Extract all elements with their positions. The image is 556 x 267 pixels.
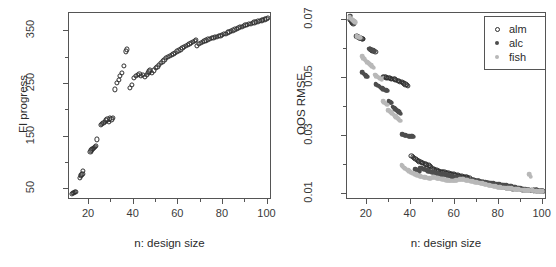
data-point-fish xyxy=(528,175,533,180)
legend-label: fish xyxy=(509,51,526,63)
x-tick-minor xyxy=(432,199,433,202)
data-point-alm xyxy=(112,87,117,92)
data-point-alm xyxy=(406,83,411,88)
y-tick xyxy=(63,30,68,31)
legend-item-alm: alm xyxy=(491,22,537,36)
y-tick-label: 350 xyxy=(24,0,36,59)
y-tick-label: 0.05 xyxy=(302,47,314,106)
legend: almalcfish xyxy=(484,16,546,70)
x-tick xyxy=(267,199,268,204)
data-point-alc xyxy=(412,134,417,139)
legend-item-fish: fish xyxy=(491,50,537,64)
y-tick-label: 0.07 xyxy=(302,0,314,48)
chart-panel-right: OOS RMSE n: design size 204060801000.010… xyxy=(278,0,556,267)
x-axis-title: n: design size xyxy=(134,237,204,249)
y-tick-label: 150 xyxy=(24,105,36,164)
data-point-fish xyxy=(379,77,384,82)
data-point-alm xyxy=(93,143,98,148)
x-tick-label: 40 xyxy=(127,207,139,219)
x-tick-minor xyxy=(520,199,521,202)
x-tick-label: 20 xyxy=(82,207,94,219)
data-point-alm xyxy=(129,83,134,88)
y-tick-label: 0.03 xyxy=(302,105,314,164)
x-tick-minor xyxy=(388,199,389,202)
x-tick-minor xyxy=(476,199,477,202)
data-point-alm xyxy=(121,64,126,69)
x-tick xyxy=(542,199,543,204)
x-tick-label: 80 xyxy=(216,207,228,219)
x-tick-label: 60 xyxy=(171,207,183,219)
y-tick-minor xyxy=(343,164,346,165)
x-tick xyxy=(410,199,411,204)
y-tick xyxy=(63,136,68,137)
y-tick-minor xyxy=(65,162,68,163)
x-tick-minor xyxy=(200,199,201,202)
x-axis-title: n: design size xyxy=(411,237,481,249)
data-point-fish xyxy=(358,35,363,40)
x-tick xyxy=(177,199,178,204)
plot-frame xyxy=(68,12,271,199)
chart-panel-left: FI progress n: design size 2040608010050… xyxy=(0,0,278,267)
y-tick xyxy=(63,188,68,189)
legend-marker-icon xyxy=(491,27,503,32)
y-tick-minor xyxy=(343,48,346,49)
x-tick xyxy=(222,199,223,204)
legend-marker-icon xyxy=(491,55,503,60)
data-point-alc xyxy=(398,111,403,116)
x-tick-minor xyxy=(155,199,156,202)
data-point-alc xyxy=(365,74,370,79)
x-tick xyxy=(454,199,455,204)
x-tick-label: 100 xyxy=(257,207,275,219)
x-tick-label: 40 xyxy=(404,207,416,219)
y-tick xyxy=(341,193,346,194)
data-point-alm xyxy=(119,70,124,75)
data-point-alc xyxy=(372,49,377,54)
x-tick xyxy=(88,199,89,204)
y-tick xyxy=(63,83,68,84)
legend-item-alc: alc xyxy=(491,36,537,50)
y-tick-minor xyxy=(65,109,68,110)
x-tick-minor xyxy=(110,199,111,202)
x-tick-label: 100 xyxy=(532,207,550,219)
x-tick-label: 60 xyxy=(448,207,460,219)
y-tick xyxy=(341,135,346,136)
data-point-alm xyxy=(124,47,129,52)
data-point-alm xyxy=(110,115,115,120)
data-point-alm xyxy=(265,16,270,21)
figure-root: FI progress n: design size 2040608010050… xyxy=(0,0,556,267)
data-point-alm xyxy=(81,168,86,173)
x-tick xyxy=(133,199,134,204)
y-tick-minor xyxy=(343,106,346,107)
legend-label: alm xyxy=(509,23,527,35)
x-tick-label: 80 xyxy=(492,207,504,219)
legend-label: alc xyxy=(509,37,523,49)
x-tick xyxy=(498,199,499,204)
x-tick-label: 20 xyxy=(360,207,372,219)
legend-marker-icon xyxy=(491,41,503,46)
y-tick-minor xyxy=(65,57,68,58)
x-tick-minor xyxy=(244,199,245,202)
plot-data-area xyxy=(69,13,270,198)
data-point-fish xyxy=(540,189,545,194)
y-tick-label: 250 xyxy=(24,53,36,112)
data-point-fish xyxy=(398,118,403,123)
y-tick xyxy=(341,19,346,20)
data-point-fish xyxy=(385,103,390,108)
data-point-fish xyxy=(372,65,377,70)
data-point-fish xyxy=(353,20,358,25)
y-tick xyxy=(341,77,346,78)
data-point-alc xyxy=(385,88,390,93)
y-tick-label: 0.01 xyxy=(302,163,314,222)
data-point-alm xyxy=(95,137,100,142)
y-tick-label: 50 xyxy=(24,158,36,217)
data-point-alm xyxy=(73,190,78,195)
x-tick xyxy=(366,199,367,204)
